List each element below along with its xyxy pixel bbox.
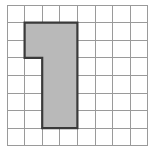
grid-figure — [0, 0, 161, 147]
grid-figure-canvas — [0, 0, 161, 147]
